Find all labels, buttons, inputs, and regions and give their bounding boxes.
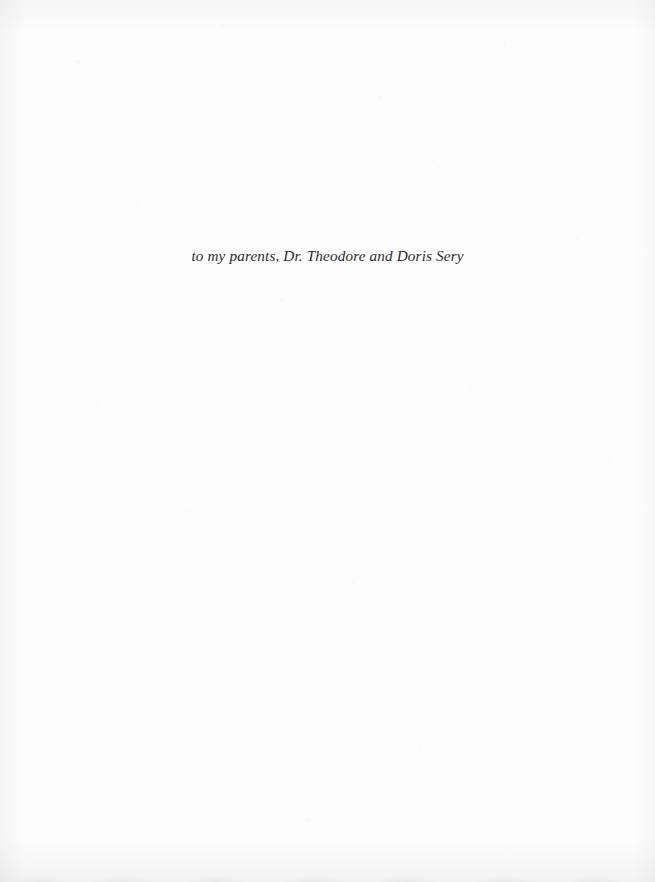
scan-noise-texture [0, 0, 655, 882]
page-edge-shadow-left [0, 0, 26, 882]
dedication-text: to my parents, Dr. Theodore and Doris Se… [0, 246, 655, 265]
scanned-page: to my parents, Dr. Theodore and Doris Se… [0, 0, 655, 882]
page-edge-mottle-bottom [0, 862, 655, 882]
page-edge-shadow-right [633, 0, 655, 882]
page-edge-shadow-bottom [0, 838, 655, 882]
page-edge-shadow-top [0, 0, 655, 34]
